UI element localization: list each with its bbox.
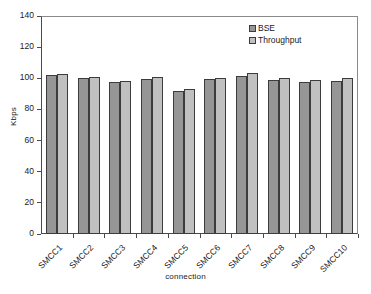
bar-bse-smcc7 xyxy=(236,76,247,234)
bar-throughput-smcc10 xyxy=(342,78,353,234)
bse-swatch-icon xyxy=(249,25,256,32)
bar-bse-smcc2 xyxy=(78,78,89,234)
bar-throughput-smcc6 xyxy=(215,78,226,234)
bar-throughput-smcc8 xyxy=(279,78,290,234)
bar-throughput-smcc2 xyxy=(89,77,100,234)
bar-throughput-smcc7 xyxy=(247,73,258,234)
bar-bse-smcc4 xyxy=(141,79,152,234)
chart-legend: BSE Throughput xyxy=(249,22,301,46)
legend-label-throughput: Throughput xyxy=(258,34,301,46)
bar-bse-smcc5 xyxy=(173,91,184,234)
bar-bse-smcc10 xyxy=(331,81,342,234)
legend-item-throughput: Throughput xyxy=(249,34,301,46)
bar-throughput-smcc9 xyxy=(310,80,321,234)
y-tick-label: 80 xyxy=(3,104,34,113)
y-tick-label: 0 xyxy=(3,229,34,238)
bar-throughput-smcc4 xyxy=(152,77,163,234)
bars-layer xyxy=(41,16,358,234)
x-tick-mark xyxy=(326,234,327,238)
x-tick-mark xyxy=(136,234,137,238)
x-tick-mark xyxy=(263,234,264,238)
bar-throughput-smcc5 xyxy=(184,89,195,234)
bar-bse-smcc8 xyxy=(268,80,279,234)
y-tick-label: 120 xyxy=(3,42,34,51)
legend-label-bse: BSE xyxy=(258,22,275,34)
legend-item-bse: BSE xyxy=(249,22,301,34)
x-axis-title: connection xyxy=(0,272,371,281)
y-tick-label: 20 xyxy=(3,198,34,207)
x-tick-mark xyxy=(200,234,201,238)
x-tick-mark xyxy=(168,234,169,238)
throughput-swatch-icon xyxy=(249,37,256,44)
x-tick-mark xyxy=(104,234,105,238)
y-tick-label: 40 xyxy=(3,167,34,176)
y-tick-label: 100 xyxy=(3,73,34,82)
bar-bse-smcc9 xyxy=(299,82,310,234)
bar-bse-smcc3 xyxy=(109,82,120,234)
y-tick-label: 60 xyxy=(3,136,34,145)
bar-chart: Kbps 020406080100120140 SMCC1SMCC2SMCC3S… xyxy=(0,0,371,294)
bar-throughput-smcc3 xyxy=(120,81,131,234)
x-tick-mark xyxy=(73,234,74,238)
bar-throughput-smcc1 xyxy=(57,74,68,234)
bar-bse-smcc1 xyxy=(46,75,57,234)
x-tick-mark xyxy=(295,234,296,238)
x-tick-mark xyxy=(231,234,232,238)
bar-bse-smcc6 xyxy=(204,79,215,234)
x-tick-mark xyxy=(358,234,359,238)
y-tick-label: 140 xyxy=(3,11,34,20)
